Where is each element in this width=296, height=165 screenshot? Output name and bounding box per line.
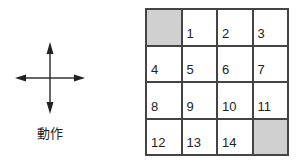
tile-number: 1: [187, 26, 194, 41]
puzzle-cell[interactable]: 10: [217, 82, 253, 119]
tile-number: 12: [151, 135, 165, 150]
puzzle-cell[interactable]: 6: [217, 46, 253, 83]
puzzle-cell[interactable]: 3: [253, 9, 289, 46]
puzzle-cell[interactable]: 12: [146, 119, 182, 156]
tile-number: 14: [222, 135, 236, 150]
sliding-puzzle-grid: 1 2 3 4 5 6 7 8 9 10 11 12 13 14: [145, 8, 289, 156]
action-label: 動作: [33, 123, 67, 142]
tile-number: 2: [222, 26, 229, 41]
tile-number: 3: [258, 26, 265, 41]
tile-number: 10: [222, 99, 236, 114]
tile-number: 11: [258, 99, 272, 114]
tile-number: 9: [187, 99, 194, 114]
tile-number: 7: [258, 62, 265, 77]
tile-number: 4: [151, 62, 158, 77]
puzzle-cell[interactable]: 7: [253, 46, 289, 83]
tile-number: 8: [151, 99, 158, 114]
tile-number: 13: [187, 135, 201, 150]
puzzle-cell-blank[interactable]: [146, 9, 182, 46]
puzzle-cell[interactable]: 11: [253, 82, 289, 119]
puzzle-cell[interactable]: 9: [182, 82, 218, 119]
puzzle-cell[interactable]: 4: [146, 46, 182, 83]
puzzle-cell[interactable]: 2: [217, 9, 253, 46]
puzzle-cell[interactable]: 14: [217, 119, 253, 156]
puzzle-cell[interactable]: 5: [182, 46, 218, 83]
puzzle-cell[interactable]: 13: [182, 119, 218, 156]
puzzle-cell[interactable]: 1: [182, 9, 218, 46]
puzzle-cell[interactable]: 8: [146, 82, 182, 119]
four-direction-arrows-icon: [0, 0, 100, 120]
tile-number: 6: [222, 62, 229, 77]
tile-number: 5: [187, 62, 194, 77]
puzzle-cell-blank[interactable]: [253, 119, 289, 156]
